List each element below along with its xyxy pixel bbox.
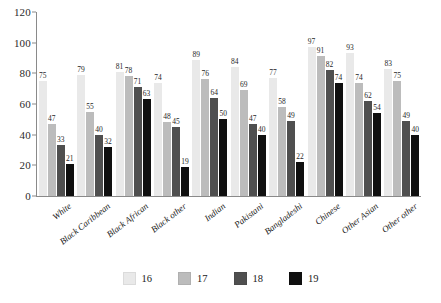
bar: 50 [219,119,227,196]
bar-value-label: 40 [258,126,266,135]
y-tick-mark [32,73,36,74]
bar: 93 [346,53,354,196]
bar-value-label: 74 [335,74,343,83]
legend-label: 18 [253,273,264,284]
bar-value-label: 91 [317,47,325,56]
bar-group: 75473321 [38,12,75,196]
bar: 75 [39,81,47,196]
bar: 32 [104,147,112,196]
bar: 58 [278,107,286,196]
legend-swatch [123,272,136,285]
bar-group: 74484519 [153,12,190,196]
bar-value-label: 47 [249,115,257,124]
y-tick-label: 0 [25,190,31,202]
legend-swatch [234,272,247,285]
category-label: Black African [105,201,150,239]
bar-value-label: 69 [240,81,248,90]
bar-value-label: 48 [163,113,171,122]
legend-label: 17 [197,273,208,284]
bar-group: 81787163 [115,12,152,196]
bar: 76 [201,79,209,196]
y-tick-mark [32,196,36,197]
bar: 83 [384,69,392,196]
legend-item[interactable]: 19 [289,272,319,285]
bar: 69 [240,90,248,196]
bar-value-label: 75 [394,72,402,81]
bar: 74 [154,83,162,196]
bar: 21 [66,164,74,196]
bar: 91 [317,56,325,196]
y-tick-mark [32,165,36,166]
bar-value-label: 63 [143,90,151,99]
bar: 79 [77,75,85,196]
bar-value-label: 64 [211,89,219,98]
bar: 19 [181,167,189,196]
bar-value-label: 76 [202,70,210,79]
bar-value-label: 71 [134,78,142,87]
bar-value-label: 58 [278,98,286,107]
bar-group: 83754940 [383,12,420,196]
bar: 22 [296,162,304,196]
bar-value-label: 21 [66,155,74,164]
bar-value-label: 19 [181,158,189,167]
y-tick-label: 100 [14,37,31,49]
y-tick-label: 120 [14,6,31,18]
bar: 77 [269,78,277,196]
bar-value-label: 83 [385,60,393,69]
bars-container: 7547332179554032817871637448451989766450… [37,12,421,196]
y-tick-label: 80 [20,67,31,79]
bar: 48 [163,122,171,196]
y-tick-mark [32,134,36,135]
y-tick-mark [32,42,36,43]
bar: 89 [192,60,200,196]
bar-value-label: 45 [172,118,180,127]
category-label: Other other [380,201,419,235]
bar: 45 [172,127,180,196]
plot-area: 020406080100120 754733217955403281787163… [0,0,441,303]
bar-value-label: 33 [57,136,65,145]
bar-value-label: 54 [373,104,381,113]
bar-value-label: 40 [412,126,420,135]
bar-group: 93746254 [345,12,382,196]
bar-value-label: 50 [220,110,228,119]
bar: 78 [125,76,133,196]
y-tick-label: 60 [20,98,31,110]
legend-label: 16 [142,273,153,284]
y-tick-mark [32,12,36,13]
legend-item[interactable]: 18 [234,272,264,285]
category-label: Other Asian [340,201,381,236]
bar-chart: 020406080100120 754733217955403281787163… [0,0,441,303]
bar: 47 [249,124,257,196]
bar: 40 [95,135,103,196]
category-label: Black other [149,201,188,235]
y-tick-label: 20 [20,159,31,171]
bar-value-label: 93 [346,44,354,53]
bar-value-label: 62 [364,92,372,101]
x-axis-line [36,196,421,197]
category-label: White [51,201,74,222]
bar: 74 [355,83,363,196]
y-tick-label: 40 [20,129,31,141]
legend-label: 19 [308,273,319,284]
legend-item[interactable]: 17 [178,272,208,285]
bar: 49 [287,121,295,196]
category-label: Indian [202,201,227,223]
category-label: Pakistani [232,201,265,230]
bar: 74 [335,83,343,196]
bar-value-label: 22 [296,153,304,162]
bar-value-label: 79 [77,66,85,75]
bar-value-label: 49 [287,112,295,121]
bar-value-label: 74 [355,74,363,83]
bar: 63 [143,99,151,196]
bar: 55 [86,112,94,196]
bar-value-label: 47 [48,115,56,124]
bar-value-label: 97 [308,38,316,47]
bar-value-label: 89 [193,51,201,60]
bar: 62 [364,101,372,196]
bar-group: 89766450 [191,12,228,196]
legend-item[interactable]: 16 [123,272,153,285]
bar-value-label: 77 [269,69,277,78]
bar-value-label: 40 [95,126,103,135]
bar: 71 [134,87,142,196]
bar-value-label: 49 [403,112,411,121]
